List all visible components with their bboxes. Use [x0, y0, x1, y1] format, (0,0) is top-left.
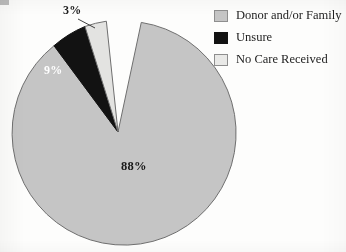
legend-item-label: Unsure [236, 31, 272, 44]
legend-item-donor-and-or-family[interactable]: Donor and/or Family [214, 6, 346, 25]
pie-svg [0, 0, 240, 252]
legend-swatch-icon [214, 10, 228, 22]
legend-swatch-icon [214, 32, 228, 44]
pie-slice-donor-and-or-family[interactable] [12, 22, 236, 245]
legend-swatch-icon [214, 54, 228, 66]
legend-item-label: Donor and/or Family [236, 9, 342, 22]
legend-item-unsure[interactable]: Unsure [214, 28, 346, 47]
chart-figure: 88% 9% 3% Donor and/or Family Unsure No … [0, 0, 346, 252]
pie-chart: 88% 9% 3% [0, 0, 240, 252]
legend-item-label: No Care Received [236, 53, 328, 66]
legend: Donor and/or Family Unsure No Care Recei… [214, 6, 346, 72]
legend-item-no-care-received[interactable]: No Care Received [214, 50, 346, 69]
